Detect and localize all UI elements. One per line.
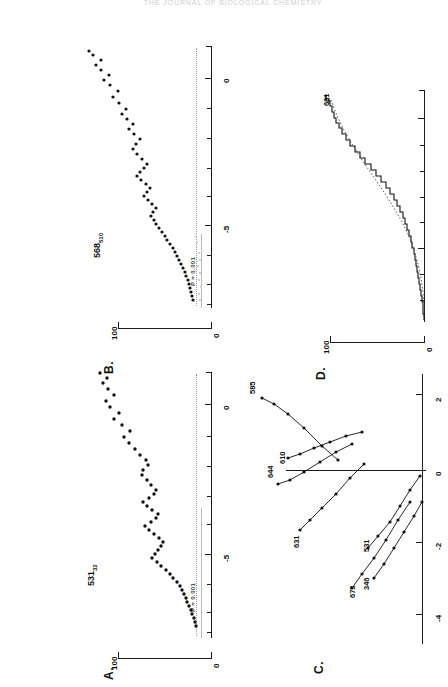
- panel-A: 100 0 0 -5 A. 53132 P = 0.001: [0, 358, 228, 678]
- panel-C-markers: [260, 396, 423, 589]
- panel-C-curve-644: [278, 444, 352, 484]
- panel-C-curves: [226, 352, 448, 682]
- panel-D-step-line: [326, 96, 424, 320]
- figure-canvas: 100 0 0 -5 B. 568510 P = 0.001: [0, 0, 448, 687]
- panel-A-scatter: [0, 358, 228, 678]
- panel-D-step-curve: [226, 60, 448, 340]
- panel-C-curve-531: [368, 476, 420, 548]
- panel-B: 100 0 0 -5 B. 568510 P = 0.001: [0, 28, 228, 340]
- figure-page: THE JOURNAL OF BIOLOGICAL CHEMISTRY: [0, 0, 448, 687]
- panel-C-curve-585: [262, 398, 338, 460]
- panel-B-scatter: [0, 28, 228, 340]
- panel-C-curve-346: [374, 502, 422, 578]
- panel-C-curve-673: [352, 502, 410, 588]
- panel-B-faint-points: [195, 235, 202, 301]
- panel-D-y-axis: [330, 342, 425, 343]
- panel-D: 100 0 D. 631: [226, 60, 448, 340]
- panel-D-fit-curve: [331, 100, 424, 318]
- panel-C: 2 0 -2 -4 C. 585 631 644 610 673 531 346: [226, 352, 448, 682]
